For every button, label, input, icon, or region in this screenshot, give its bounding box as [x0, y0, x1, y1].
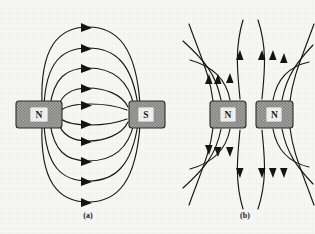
magnet-label-n: N [225, 110, 232, 120]
panel-caption-a: (a) [83, 211, 93, 220]
magnet-north-a: N [16, 101, 62, 128]
magnet-label-n: N [271, 110, 278, 120]
magnet-north-b-left: N [210, 101, 246, 128]
magnet-south-a: S [129, 101, 165, 128]
magnet-label-n: N [36, 110, 43, 120]
magnetic-field-figure: N S (a) [0, 0, 315, 234]
magnet-label-s: S [143, 110, 148, 120]
panel-caption-b: (b) [240, 211, 250, 220]
magnet-north-b-right: N [256, 101, 293, 128]
figure-canvas: N S (a) [0, 0, 315, 234]
